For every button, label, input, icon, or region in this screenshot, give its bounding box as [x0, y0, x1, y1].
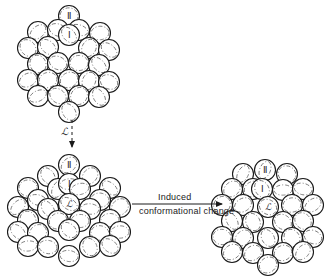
arrow-label-induced: Induced [158, 192, 191, 203]
subunit-label: Ⅰ [68, 30, 71, 40]
subunit-circle [38, 237, 59, 258]
subunit-label: ℒ [66, 199, 73, 209]
subunit-label: ℒ [265, 202, 272, 212]
bottom-left-cluster: ⅡⅠℒ [8, 154, 132, 266]
subunit-circle [28, 86, 49, 107]
subunit-circle [80, 236, 101, 258]
subunit-circle [18, 236, 39, 257]
arrow-label-conformational-change: conformational change [139, 206, 234, 217]
subunit-label: Ⅱ [263, 165, 267, 175]
top-cluster: ⅡⅠ [17, 6, 120, 123]
subunit-label: Ⅰ [261, 184, 264, 194]
subunit-circle [293, 241, 314, 262]
right-cluster: ⅡⅠℒ [210, 160, 324, 277]
subunit-circle [59, 246, 80, 267]
vertical-transition-arrow: ℒ [61, 120, 72, 147]
subunit-circle [89, 86, 110, 107]
subunit-label: Ⅱ [67, 11, 71, 21]
vertical-arrow-label: ℒ [61, 126, 69, 137]
subunit-circle [59, 101, 80, 123]
conformational-change-diagram: ⅡⅠ ⅡⅠℒ ⅡⅠℒ ℒ [0, 0, 336, 278]
subunit-circle [99, 236, 121, 257]
subunit-label: Ⅱ [67, 160, 71, 170]
subunit-circle [58, 219, 79, 240]
